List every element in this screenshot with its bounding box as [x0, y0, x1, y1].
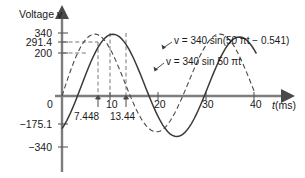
- equation-label-solid: v = 340 sin(50 πt − 0.541): [174, 36, 289, 46]
- y-tick-label-200: 200: [9, 48, 52, 59]
- y-tick-label-291-4: 291.4: [9, 37, 52, 48]
- x-axis-title-unit: (ms): [275, 99, 296, 111]
- x-tick-label-30: 30: [202, 99, 214, 110]
- x-tick-label-20: 20: [154, 99, 166, 110]
- annotation-t-7-448: 7.448: [74, 112, 99, 122]
- voltage-waveform-figure: Voltage v 340 291.4 200 −175.1 −340 0 10…: [0, 0, 305, 178]
- x-axis-title: t(ms): [272, 100, 296, 111]
- x-tick-label-10: 10: [106, 99, 118, 110]
- annotation-t-13-44: 13.44: [110, 112, 135, 122]
- x-tick-label-40: 40: [250, 99, 262, 110]
- y-axis-title: Voltage v: [19, 9, 62, 20]
- equation-label-dashed: v = 340 sin 50 πt: [166, 57, 241, 67]
- y-axis-title-text: Voltage v: [19, 8, 62, 20]
- y-tick-label-neg-340: −340: [3, 142, 52, 153]
- origin-label: 0: [47, 99, 53, 110]
- y-tick-label-neg-175-1: −175.1: [3, 119, 52, 130]
